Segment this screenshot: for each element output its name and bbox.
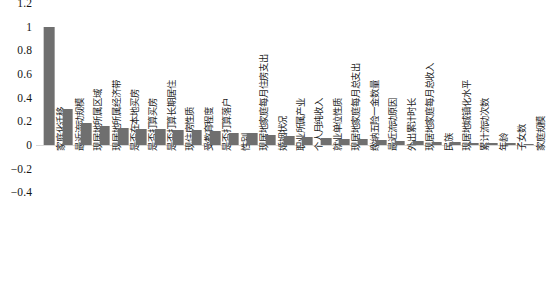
y-axis: 1.210.80.60.40.20−0.2−0.4 — [0, 0, 36, 290]
plot-area: 家庭化迁移最近流动规模现居地所属区域现居地所属经济带是否在本地买房是否打算买房是… — [36, 0, 544, 290]
y-tick-label: 0.2 — [17, 115, 32, 127]
y-tick-label: 0.6 — [17, 68, 32, 80]
y-tick-label: −0.2 — [11, 163, 32, 175]
y-tick-label: −0.4 — [11, 186, 32, 198]
y-tick-label: 0 — [26, 139, 32, 151]
y-tick-label: 0.4 — [17, 92, 32, 104]
y-tick-label: 0.8 — [17, 44, 32, 56]
x-category-label: 家庭规模 — [533, 116, 547, 151]
y-tick-label: 1 — [26, 21, 32, 33]
y-tick-label: 1.2 — [17, 0, 32, 9]
